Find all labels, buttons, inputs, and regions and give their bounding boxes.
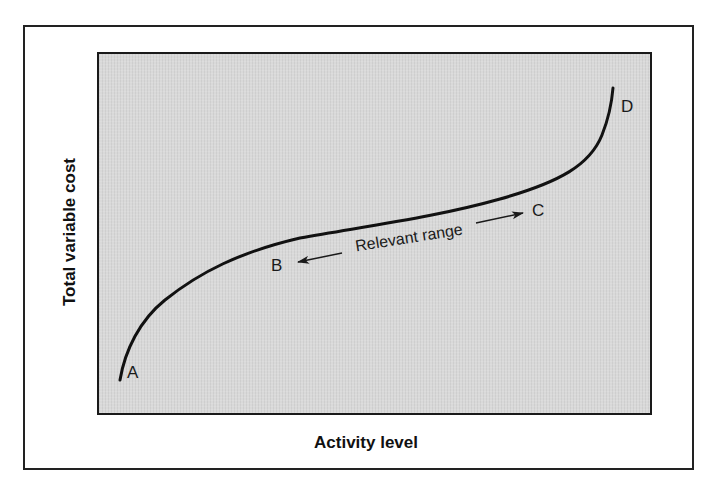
- x-axis-label: Activity level: [314, 433, 418, 453]
- range-arrow-left: [298, 253, 342, 262]
- point-label-a: A: [127, 364, 138, 381]
- point-label-c: C: [532, 202, 544, 219]
- total-variable-cost-curve: [120, 88, 613, 380]
- point-label-b: B: [271, 257, 282, 274]
- point-label-d: D: [621, 98, 633, 115]
- range-arrow-right: [476, 213, 523, 223]
- y-axis-label: Total variable cost: [60, 158, 80, 306]
